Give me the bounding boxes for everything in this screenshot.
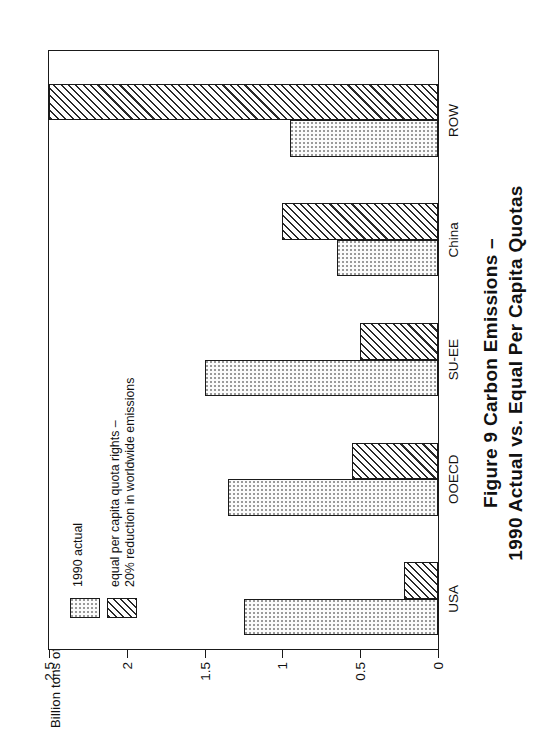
y-axis-tick-label: 2.5 [42, 662, 57, 681]
x-axis-label-ooecd: OOECD [446, 454, 461, 504]
bar-china-quota [282, 204, 438, 240]
y-axis-tick-label: 0 [431, 662, 446, 670]
x-axis-label-row: ROW [446, 104, 461, 137]
legend-item-quota: equal per capita quota rights – 20% redu… [107, 378, 138, 618]
x-axis-label-su-ee: SU-EE [446, 339, 461, 380]
bar-usa-quota [404, 562, 438, 598]
y-axis-tick-label: 0.5 [353, 662, 368, 681]
bar-usa-actual [244, 599, 439, 635]
hatched-swatch-icon [107, 598, 137, 618]
x-axis-label-china: China [446, 222, 461, 257]
y-axis-tick-label: 1.5 [197, 662, 212, 681]
figure-canvas: Billion tons of carbon 00.511.522.5USAOO… [0, 0, 542, 746]
bar-row-quota [49, 84, 438, 120]
bar-su-ee-quota [360, 323, 438, 359]
legend-item-1990-actual: 1990 actual [70, 378, 100, 618]
y-axis-tick [360, 649, 361, 658]
y-axis-tick [205, 649, 206, 658]
rotated-figure-stage: Billion tons of carbon 00.511.522.5USAOO… [0, 0, 542, 746]
legend-label-1990-actual: 1990 actual [70, 523, 86, 587]
bar-ooecd-quota [352, 443, 438, 479]
y-axis-tick [127, 649, 128, 658]
legend-label-quota-line2: 20% reduction in worldwide emissions [123, 378, 137, 587]
dotted-swatch-icon [70, 598, 100, 618]
y-axis-tick [49, 649, 50, 658]
bar-row-actual [290, 120, 438, 156]
legend-label-quota-line1: equal per capita quota rights – [108, 420, 122, 587]
bar-su-ee-actual [205, 360, 438, 396]
bar-china-actual [337, 240, 438, 276]
y-axis-tick-label: 1 [275, 662, 290, 670]
y-axis-tick [282, 649, 283, 658]
chart-legend: 1990 actual equal per capita quota right… [70, 378, 145, 618]
bar-ooecd-actual [228, 479, 438, 515]
figure-caption: Figure 9 Carbon Emissions – 1990 Actual … [478, 0, 528, 746]
caption-line-1: Figure 9 Carbon Emissions – [478, 0, 503, 746]
y-axis-tick [438, 649, 439, 658]
x-axis-label-usa: USA [446, 585, 461, 613]
y-axis-tick-label: 2 [119, 662, 134, 670]
legend-label-quota: equal per capita quota rights – 20% redu… [107, 378, 138, 587]
caption-line-2: 1990 Actual vs. Equal Per Capita Quotas [503, 0, 528, 746]
